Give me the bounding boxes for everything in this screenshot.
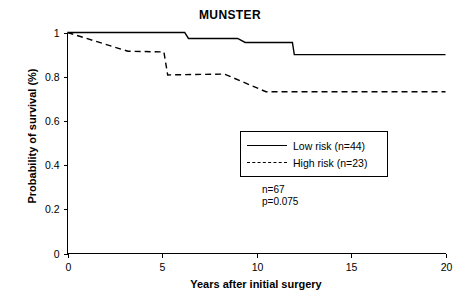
legend-label-high-risk: High risk (n=23) bbox=[293, 157, 367, 169]
x-axis-ticks: 05101520 bbox=[66, 254, 453, 273]
data-series bbox=[68, 33, 446, 92]
x-tick-label: 10 bbox=[252, 261, 264, 273]
annotation-sample-size: n=67 bbox=[262, 184, 298, 196]
y-tick-label: 0.2 bbox=[45, 203, 60, 215]
legend-item-low-risk: Low risk (n=44) bbox=[247, 137, 381, 154]
annotation-p-value: p=0.075 bbox=[262, 196, 298, 208]
y-tick-label: 0.8 bbox=[45, 71, 60, 83]
y-tick-label: 0 bbox=[54, 248, 60, 260]
statistics-annotation: n=67 p=0.075 bbox=[262, 184, 298, 208]
series-line-solid bbox=[68, 33, 446, 55]
y-tick-label: 0.4 bbox=[45, 159, 60, 171]
x-tick-label: 20 bbox=[441, 261, 453, 273]
series-line-dashed bbox=[68, 33, 446, 92]
x-tick-label: 5 bbox=[160, 261, 166, 273]
x-tick-label: 15 bbox=[346, 261, 358, 273]
chart-legend: Low risk (n=44) High risk (n=23) bbox=[240, 131, 388, 177]
legend-item-high-risk: High risk (n=23) bbox=[247, 154, 381, 171]
plot-area: 00.20.40.60.81 05101520 bbox=[0, 0, 460, 305]
x-tick-label: 0 bbox=[66, 261, 72, 273]
y-axis-label: Probability of survival (%) bbox=[26, 21, 38, 251]
legend-swatch-dashed-icon bbox=[247, 162, 287, 164]
legend-label-low-risk: Low risk (n=44) bbox=[293, 140, 365, 152]
legend-swatch-solid-icon bbox=[247, 145, 287, 147]
y-tick-label: 1 bbox=[54, 27, 60, 39]
y-axis-ticks: 00.20.40.60.81 bbox=[45, 27, 68, 260]
survival-chart-figure: MUNSTER 00.20.40.60.81 05101520 Probabil… bbox=[0, 0, 460, 305]
y-tick-label: 0.6 bbox=[45, 115, 60, 127]
x-axis-label: Years after initial surgery bbox=[67, 278, 445, 290]
